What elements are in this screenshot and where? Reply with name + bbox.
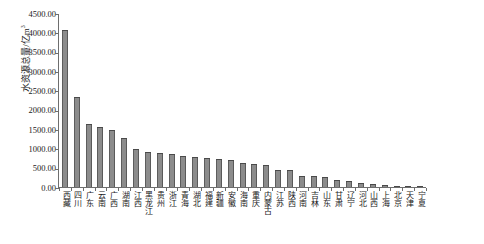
bar[interactable]	[394, 186, 400, 187]
bar-slot	[355, 14, 367, 187]
x-axis-tick-label: 重庆	[250, 191, 258, 244]
bar-slot	[272, 14, 284, 187]
bar-slot	[166, 14, 178, 187]
x-axis-label-slot: 贵州	[154, 191, 166, 244]
x-axis-label-slot: 江西	[130, 191, 142, 244]
bar[interactable]	[169, 154, 175, 187]
bar[interactable]	[62, 30, 68, 187]
bar[interactable]	[97, 127, 103, 187]
bar[interactable]	[417, 186, 423, 187]
bar[interactable]	[86, 124, 92, 187]
y-axis-tick-label: 2000.00	[28, 106, 56, 114]
x-axis-label-slot: 福建	[201, 191, 213, 244]
bar[interactable]	[275, 170, 281, 187]
bar[interactable]	[287, 170, 293, 187]
x-axis-label-slot: 广东	[83, 191, 95, 244]
bar[interactable]	[334, 180, 340, 187]
bar-slot	[320, 14, 332, 187]
bar[interactable]	[251, 164, 257, 187]
x-axis-label-slot: 青海	[177, 191, 189, 244]
y-axis-tick-mark	[55, 169, 59, 170]
bar[interactable]	[145, 152, 151, 187]
x-axis-label-slot: 内蒙古	[260, 191, 272, 244]
bar-slot	[177, 14, 189, 187]
x-axis-label-slot: 河北	[355, 191, 367, 244]
x-axis-label-slot: 云南	[95, 191, 107, 244]
x-axis-tick-labels: 西藏四川广东云南广西湖南江西黑龙江贵州浙江青海湖北福建新疆安徽海南重庆内蒙古江苏…	[59, 191, 426, 244]
bar-slot	[379, 14, 391, 187]
bar-slot	[343, 14, 355, 187]
bar[interactable]	[109, 130, 115, 187]
bar[interactable]	[299, 176, 305, 187]
x-axis-tick-label: 上海	[381, 191, 389, 244]
x-axis-tick-label: 湖北	[191, 191, 199, 244]
bar[interactable]	[311, 176, 317, 187]
x-axis-label-slot: 黑龙江	[142, 191, 154, 244]
bar[interactable]	[358, 183, 364, 187]
bar-slot	[213, 14, 225, 187]
bar[interactable]	[228, 160, 234, 187]
bar-slot	[189, 14, 201, 187]
x-axis-tick-label: 山东	[321, 191, 329, 244]
bar-chart: 水资源总量/亿m3 4500.004000.003500.003000.0025…	[0, 0, 484, 244]
y-axis-tick-mark	[55, 14, 59, 15]
bar[interactable]	[370, 184, 376, 187]
x-axis-label-slot: 江苏	[272, 191, 284, 244]
bar[interactable]	[405, 186, 411, 187]
bar[interactable]	[322, 177, 328, 187]
bar-slot	[296, 14, 308, 187]
x-axis-tick-label: 云南	[96, 191, 104, 244]
bar[interactable]	[157, 153, 163, 187]
x-axis-tick-label: 北京	[392, 191, 400, 244]
bar-slot	[237, 14, 249, 187]
y-axis-tick-label: 3500.00	[28, 48, 56, 56]
x-axis-tick-label: 吉林	[310, 191, 318, 244]
x-axis-tick-label: 宁夏	[416, 191, 424, 244]
y-axis-tick-label: 2500.00	[28, 87, 56, 95]
bar[interactable]	[133, 149, 139, 187]
bar-slot	[118, 14, 130, 187]
bar-slot	[331, 14, 343, 187]
x-axis-label-slot: 吉林	[308, 191, 320, 244]
bar-slot	[95, 14, 107, 187]
x-axis-label-slot: 广西	[106, 191, 118, 244]
x-axis-tick-label: 河南	[298, 191, 306, 244]
y-axis-tick-mark	[55, 111, 59, 112]
x-axis-tick-label: 福建	[203, 191, 211, 244]
bar[interactable]	[382, 185, 388, 187]
plot-area	[58, 14, 426, 188]
x-axis-tick-label: 甘肃	[333, 191, 341, 244]
y-axis-tick-mark	[55, 53, 59, 54]
bar-slot	[106, 14, 118, 187]
bar[interactable]	[240, 163, 246, 187]
y-axis-tick-labels: 4500.004000.003500.003000.002500.002000.…	[14, 0, 56, 244]
y-axis-tick-label: 0.00	[41, 184, 56, 192]
bar[interactable]	[121, 138, 127, 187]
x-axis-label-slot: 浙江	[166, 191, 178, 244]
bar[interactable]	[204, 158, 210, 187]
bar[interactable]	[74, 97, 80, 187]
x-axis-tick-label: 安徽	[227, 191, 235, 244]
bar[interactable]	[180, 156, 186, 187]
bar[interactable]	[263, 165, 269, 187]
bar-slot	[142, 14, 154, 187]
x-axis-label-slot: 上海	[379, 191, 391, 244]
x-axis-tick-label: 辽宁	[345, 191, 353, 244]
y-axis-tick-label: 500.00	[33, 164, 56, 172]
bar[interactable]	[346, 181, 352, 187]
x-axis-tick-label: 浙江	[167, 191, 175, 244]
bar[interactable]	[192, 157, 198, 187]
x-axis-tick-label: 湖南	[120, 191, 128, 244]
x-axis-tick-label: 黑龙江	[144, 191, 152, 244]
x-axis-label-slot: 天津	[402, 191, 414, 244]
x-axis-tick-label: 河北	[357, 191, 365, 244]
x-axis-tick-label: 新疆	[215, 191, 223, 244]
bar[interactable]	[216, 159, 222, 187]
bar-slot	[367, 14, 379, 187]
bar-slot	[201, 14, 213, 187]
x-axis-label-slot: 辽宁	[343, 191, 355, 244]
x-axis-label-slot: 湖北	[189, 191, 201, 244]
x-axis-tick-label: 江苏	[274, 191, 282, 244]
x-axis-tick-label: 天津	[404, 191, 412, 244]
x-axis-label-slot: 新疆	[213, 191, 225, 244]
